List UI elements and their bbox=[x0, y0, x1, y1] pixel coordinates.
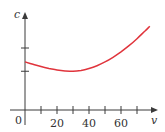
x-tick-label: 20 bbox=[50, 117, 64, 130]
y-axis-label: c bbox=[14, 8, 20, 21]
chart: 0 20 40 60 v c bbox=[0, 0, 165, 132]
x-axis-arrow-icon bbox=[151, 107, 158, 113]
ticks bbox=[21, 48, 137, 114]
axes bbox=[10, 12, 158, 125]
tick-labels: 0 20 40 60 bbox=[15, 114, 128, 130]
y-axis-arrow-icon bbox=[22, 12, 28, 19]
x-tick-label: 60 bbox=[114, 117, 128, 130]
origin-label: 0 bbox=[15, 114, 22, 127]
x-axis-label: v bbox=[151, 114, 158, 127]
x-tick-label: 40 bbox=[82, 117, 96, 130]
series-line bbox=[25, 26, 150, 71]
